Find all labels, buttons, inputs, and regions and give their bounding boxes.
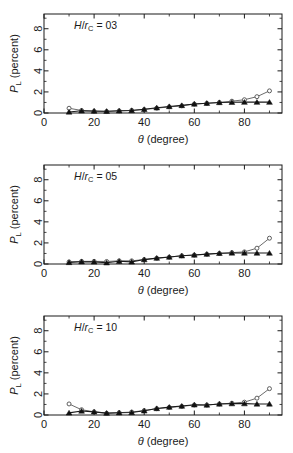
x-tick-label: 20 <box>88 267 100 279</box>
chart-panel-2: 02040608002468θ (degree)PL (percent)H/rC… <box>0 302 293 453</box>
y-tick-label: 4 <box>32 370 44 376</box>
y-tick-label: 4 <box>32 68 44 74</box>
x-tick-label: 0 <box>41 418 47 430</box>
y-tick-label: 8 <box>32 328 44 334</box>
x-tick-label: 60 <box>188 267 200 279</box>
plot-svg-0: 02040608002468θ (degree)PL (percent)H/rC… <box>0 0 293 151</box>
figure-root: 02040608002468θ (degree)PL (percent)H/rC… <box>0 0 293 453</box>
y-axis-title: PL (percent) <box>8 336 23 395</box>
x-axis-title: θ (degree) <box>138 284 189 296</box>
x-axis-title: θ (degree) <box>138 133 189 145</box>
x-tick-label: 60 <box>188 116 200 128</box>
y-tick-label: 0 <box>32 412 44 418</box>
x-tick-label: 60 <box>188 418 200 430</box>
x-tick-label: 80 <box>238 267 250 279</box>
data-point-open-circle <box>267 387 271 391</box>
x-tick-label: 40 <box>138 267 150 279</box>
panel-annotation: H/rC = 03 <box>74 19 117 34</box>
data-point-open-circle <box>255 246 259 250</box>
panel-annotation: H/rC = 05 <box>74 170 117 185</box>
x-tick-label: 20 <box>88 116 100 128</box>
x-tick-label: 40 <box>138 418 150 430</box>
y-tick-label: 8 <box>32 177 44 183</box>
panel-annotation: H/rC = 10 <box>74 321 117 336</box>
y-tick-label: 6 <box>32 47 44 53</box>
y-tick-label: 2 <box>32 240 44 246</box>
chart-panel-1: 02040608002468θ (degree)PL (percent)H/rC… <box>0 151 293 302</box>
x-axis-title: θ (degree) <box>138 435 189 447</box>
plot-svg-1: 02040608002468θ (degree)PL (percent)H/rC… <box>0 151 293 302</box>
y-tick-label: 2 <box>32 89 44 95</box>
x-tick-label: 0 <box>41 116 47 128</box>
data-point-open-circle <box>267 89 271 93</box>
data-point-open-circle <box>255 95 259 99</box>
x-tick-label: 80 <box>238 418 250 430</box>
x-tick-label: 40 <box>138 116 150 128</box>
y-axis-title: PL (percent) <box>8 34 23 93</box>
data-point-open-circle <box>255 396 259 400</box>
y-tick-label: 0 <box>32 110 44 116</box>
y-axis-title: PL (percent) <box>8 185 23 244</box>
y-tick-label: 6 <box>32 349 44 355</box>
plot-svg-2: 02040608002468θ (degree)PL (percent)H/rC… <box>0 302 293 453</box>
data-point-open-circle <box>67 402 71 406</box>
y-tick-label: 8 <box>32 26 44 32</box>
y-tick-label: 6 <box>32 198 44 204</box>
chart-panel-0: 02040608002468θ (degree)PL (percent)H/rC… <box>0 0 293 151</box>
x-tick-label: 20 <box>88 418 100 430</box>
y-tick-label: 2 <box>32 391 44 397</box>
x-tick-label: 80 <box>238 116 250 128</box>
data-point-open-circle <box>267 236 271 240</box>
x-tick-label: 0 <box>41 267 47 279</box>
y-tick-label: 0 <box>32 261 44 267</box>
y-tick-label: 4 <box>32 219 44 225</box>
